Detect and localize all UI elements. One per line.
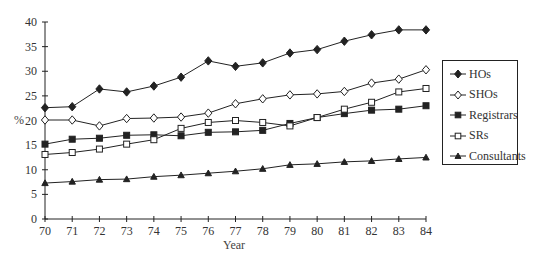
x-tick-label: 84 xyxy=(420,224,432,238)
y-tick-label: 20 xyxy=(25,114,37,128)
legend-item-hos: HOs xyxy=(449,64,517,85)
x-tick-label: 71 xyxy=(66,224,78,238)
x-tick-label: 70 xyxy=(39,224,51,238)
x-tick-label: 79 xyxy=(284,224,296,238)
series-consultants xyxy=(42,154,429,185)
chart-legend: HOs SHOs Registrars SRs Consultants xyxy=(442,60,518,165)
x-tick-label: 83 xyxy=(393,224,405,238)
x-tick-label: 74 xyxy=(148,224,160,238)
y-tick-label: 40 xyxy=(25,15,37,29)
legend-label: HOs xyxy=(469,67,491,82)
filled-diamond-icon xyxy=(449,69,467,79)
filled-triangle-icon xyxy=(449,151,467,161)
open-diamond-icon xyxy=(449,90,467,100)
y-tick-label: 15 xyxy=(25,138,37,152)
x-axis-label: Year xyxy=(223,238,245,253)
series-srs xyxy=(42,85,429,157)
y-tick-label: 10 xyxy=(25,163,37,177)
x-tick-label: 82 xyxy=(366,224,378,238)
x-tick-label: 77 xyxy=(230,224,242,238)
x-tick-label: 78 xyxy=(257,224,269,238)
legend-label: Consultants xyxy=(469,149,526,164)
y-tick-label: 0 xyxy=(31,212,37,226)
y-tick-label: 25 xyxy=(25,89,37,103)
x-tick-label: 73 xyxy=(121,224,133,238)
legend-label: SRs xyxy=(469,128,488,143)
legend-item-consultants: Consultants xyxy=(449,146,517,167)
legend-label: Registrars xyxy=(469,108,518,123)
x-tick-label: 76 xyxy=(202,224,214,238)
filled-square-icon xyxy=(449,110,467,120)
open-square-icon xyxy=(449,131,467,141)
legend-item-shos: SHOs xyxy=(449,85,517,106)
legend-label: SHOs xyxy=(469,87,498,102)
y-tick-label: 35 xyxy=(25,40,37,54)
x-tick-label: 75 xyxy=(175,224,187,238)
x-tick-label: 81 xyxy=(338,224,350,238)
y-tick-label: 30 xyxy=(25,64,37,78)
legend-item-srs: SRs xyxy=(449,126,517,147)
y-axis-label: % xyxy=(14,113,24,128)
y-tick-label: 5 xyxy=(31,187,37,201)
x-tick-label: 80 xyxy=(311,224,323,238)
chart-series xyxy=(41,26,429,186)
legend-item-registrars: Registrars xyxy=(449,105,517,126)
chart-axes: 0510152025303540707172737475767778798081… xyxy=(25,15,432,238)
x-tick-label: 72 xyxy=(93,224,105,238)
